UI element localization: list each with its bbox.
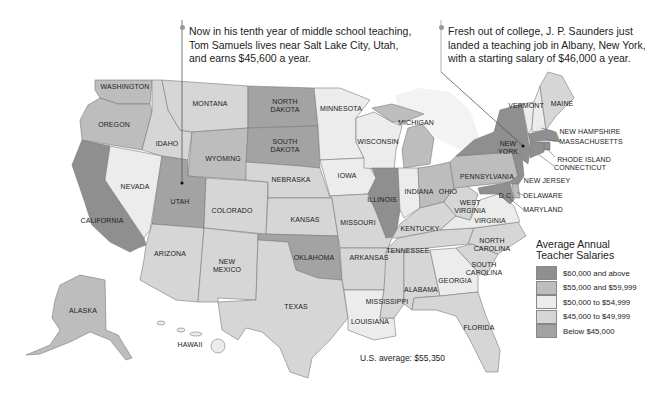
legend-item: $45,000 to $49,999 (536, 310, 637, 325)
new-york-annotation-marker (439, 25, 444, 30)
label-michigan: MICHIGAN (398, 119, 434, 127)
label-georgia: GEORGIA (438, 277, 471, 285)
legend-label: $45,000 to $49,999 (563, 312, 630, 321)
label-louisiana: LOUISIANA (351, 318, 389, 326)
label-alaska: ALASKA (69, 307, 97, 315)
label-mississippi: MISSISSIPPI (366, 298, 409, 306)
legend-item: $60,000 and above (536, 266, 637, 281)
legend-label: Below $45,000 (563, 327, 615, 336)
label-connecticut: CONNECTICUT (554, 164, 606, 172)
label-dc: D.C. (499, 192, 513, 200)
us-teacher-salary-map: Now in his tenth year of middle school t… (0, 0, 650, 400)
label-illinois: ILLINOIS (367, 196, 397, 204)
state-rhode-island (544, 142, 550, 150)
legend: Average Annual Teacher Salaries $60,000 … (536, 239, 637, 339)
label-arkansas: ARKANSAS (350, 254, 389, 262)
label-kansas: KANSAS (291, 216, 320, 224)
label-minnesota: MINNESOTA (320, 105, 362, 113)
legend-label: $55,000 and $59,999 (563, 283, 637, 292)
label-south-carolina: SOUTH CAROLINA (464, 261, 504, 277)
utah-annotation-marker (180, 25, 185, 30)
label-arizona: ARIZONA (154, 250, 186, 258)
label-wisconsin: WISCONSIN (357, 138, 398, 146)
legend-swatch (536, 281, 557, 295)
label-nevada: NEVADA (121, 183, 150, 191)
legend-item: Below $45,000 (536, 324, 637, 339)
label-nebraska: NEBRASKA (272, 176, 311, 184)
legend-title: Average Annual Teacher Salaries (536, 239, 636, 261)
new-york-annotation: Fresh out of college, J. P. Saunders jus… (448, 25, 648, 66)
label-maryland: MARYLAND (523, 206, 563, 214)
label-new-jersey: NEW JERSEY (524, 177, 571, 185)
label-rhode-island: RHODE ISLAND (557, 156, 611, 164)
state-connecticut (530, 142, 544, 158)
label-texas: TEXAS (284, 303, 307, 311)
label-california: CALIFORNIA (80, 217, 123, 225)
label-indiana: INDIANA (404, 188, 433, 196)
state-wyoming (188, 128, 248, 180)
label-west-virginia: WEST VIRGINIA (453, 199, 487, 215)
label-alabama: ALABAMA (404, 286, 438, 294)
legend-item: $55,000 and $59,999 (536, 281, 637, 296)
label-virginia: VIRGINIA (474, 217, 506, 225)
label-iowa: IOWA (338, 172, 357, 180)
label-new-hampshire: NEW HAMPSHIRE (559, 128, 620, 136)
label-new-york: NEW YORK (494, 140, 522, 156)
utah-annotation: Now in his tenth year of middle school t… (189, 25, 414, 66)
legend-label: $60,000 and above (563, 269, 630, 278)
label-tennessee: TENNESSEE (386, 247, 429, 255)
label-ohio: OHIO (439, 188, 457, 196)
legend-swatch (536, 310, 557, 324)
label-vermont: VERMONT (508, 102, 544, 110)
state-alaska (26, 275, 132, 360)
label-wyoming: WYOMING (205, 155, 241, 163)
label-idaho: IDAHO (156, 140, 179, 148)
label-hawaii: HAWAII (178, 341, 203, 349)
legend-swatch (536, 266, 557, 280)
label-oregon: OREGON (98, 121, 130, 129)
label-north-dakota: NORTH DAKOTA (267, 98, 303, 114)
legend-item: $50,000 to $54,999 (536, 295, 637, 310)
label-new-mexico: NEW MEXICO (210, 258, 244, 274)
label-maine: MAINE (551, 100, 574, 108)
label-massachusetts: MASSACHUSETTS (559, 138, 623, 146)
state-arizona (140, 224, 204, 302)
label-south-dakota: SOUTH DAKOTA (267, 138, 303, 154)
legend-swatch (536, 295, 557, 309)
label-colorado: COLORADO (212, 207, 253, 215)
us-average: U.S. average: $55,350 (360, 353, 445, 363)
legend-swatch (536, 324, 557, 338)
label-utah: UTAH (171, 198, 190, 206)
label-delaware: DELAWARE (523, 192, 563, 200)
label-kentucky: KENTUCKY (401, 225, 440, 233)
legend-label: $50,000 to $54,999 (563, 298, 630, 307)
label-oklahoma: OKLAHOMA (294, 254, 334, 262)
label-montana: MONTANA (192, 100, 227, 108)
label-florida: FLORIDA (463, 324, 494, 332)
label-washington: WASHINGTON (101, 83, 150, 91)
state-colorado (204, 178, 268, 234)
label-missouri: MISSOURI (340, 219, 375, 227)
label-pennsylvania: PENNSYLVANIA (460, 173, 514, 181)
label-north-carolina: NORTH CAROLINA (472, 237, 512, 253)
